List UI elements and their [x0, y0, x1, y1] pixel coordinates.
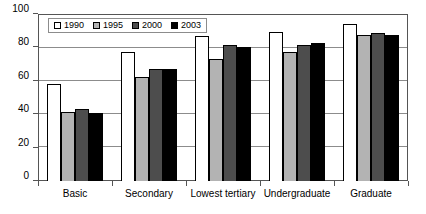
legend-label-2000: 2000 — [142, 21, 162, 30]
legend-swatch-1995-icon — [93, 22, 100, 29]
y-tick-label-100: 100 — [12, 4, 29, 14]
legend-label-1990: 1990 — [64, 21, 84, 30]
legend-entry-2000[interactable]: 2000 — [132, 21, 162, 30]
x-tick-mark-3 — [260, 181, 261, 186]
bar-undergraduate-1990[interactable] — [269, 32, 283, 181]
bar-basic-1995[interactable] — [61, 112, 75, 181]
x-category-label-graduate: Graduate — [334, 188, 408, 199]
legend-entry-1995[interactable]: 1995 — [93, 21, 123, 30]
x-category-label-basic: Basic — [38, 188, 112, 199]
bar-undergraduate-2003[interactable] — [311, 43, 325, 181]
bar-lowest-tertiary-2003[interactable] — [237, 47, 251, 181]
bar-graduate-2003[interactable] — [385, 35, 399, 181]
bar-group-graduate — [334, 14, 408, 181]
x-axis-labels: BasicSecondaryLowest tertiaryUndergradua… — [38, 188, 408, 199]
y-tick-label-80: 80 — [18, 37, 29, 47]
legend-swatch-1990-icon — [54, 22, 61, 29]
x-category-label-lowest-tertiary: Lowest tertiary — [186, 188, 260, 199]
bar-basic-1990[interactable] — [47, 84, 61, 181]
x-axis-ticks — [38, 181, 408, 186]
bar-lowest-tertiary-2000[interactable] — [223, 45, 237, 181]
bar-group-secondary — [112, 14, 186, 181]
x-tick-mark-5 — [408, 181, 409, 186]
bar-graduate-1995[interactable] — [357, 35, 371, 181]
bars-layer — [38, 14, 408, 181]
bar-undergraduate-1995[interactable] — [283, 52, 297, 181]
y-tick-label-20: 20 — [18, 138, 29, 148]
bar-lowest-tertiary-1995[interactable] — [209, 59, 223, 181]
legend-entry-2003[interactable]: 2003 — [171, 21, 201, 30]
bar-secondary-1995[interactable] — [135, 77, 149, 181]
bar-group-lowest-tertiary — [186, 14, 260, 181]
y-tick-label-60: 60 — [18, 71, 29, 81]
bar-basic-2000[interactable] — [75, 109, 89, 181]
x-category-label-secondary: Secondary — [112, 188, 186, 199]
bar-group-basic — [38, 14, 112, 181]
legend-swatch-2003-icon — [171, 22, 178, 29]
bar-graduate-2000[interactable] — [371, 33, 385, 181]
bar-secondary-2000[interactable] — [149, 69, 163, 181]
bar-lowest-tertiary-1990[interactable] — [195, 36, 209, 181]
y-tick-label-0: 0 — [23, 171, 29, 181]
bar-basic-2003[interactable] — [89, 113, 103, 181]
legend-label-2003: 2003 — [181, 21, 201, 30]
bar-secondary-1990[interactable] — [121, 52, 135, 181]
bar-group-undergraduate — [260, 14, 334, 181]
bar-graduate-1990[interactable] — [343, 24, 357, 181]
legend-entry-1990[interactable]: 1990 — [54, 21, 84, 30]
y-axis: 020406080100 — [0, 14, 34, 181]
bar-chart-figure: 020406080100 BasicSecondaryLowest tertia… — [0, 0, 426, 214]
x-tick-mark-4 — [334, 181, 335, 186]
y-tick-label-40: 40 — [18, 104, 29, 114]
x-category-label-undergraduate: Undergraduate — [260, 188, 334, 199]
x-tick-mark-1 — [112, 181, 113, 186]
x-tick-mark-2 — [186, 181, 187, 186]
bar-undergraduate-2000[interactable] — [297, 45, 311, 181]
chart-legend: 1990199520002003 — [48, 18, 207, 33]
x-tick-mark-0 — [38, 181, 39, 186]
legend-label-1995: 1995 — [103, 21, 123, 30]
legend-swatch-2000-icon — [132, 22, 139, 29]
bar-secondary-2003[interactable] — [163, 69, 177, 181]
